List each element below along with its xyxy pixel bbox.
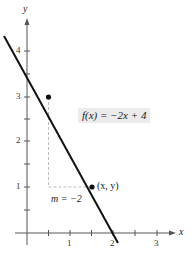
x-tick-label-3: 3 <box>154 239 159 248</box>
point-label: (x, y) <box>97 181 119 191</box>
y-axis-arrow-icon <box>25 18 30 25</box>
point-xy <box>89 184 94 189</box>
x-axis-arrow-icon <box>169 231 176 236</box>
line-graph <box>0 0 196 258</box>
x-axis-label: x <box>179 227 183 237</box>
y-tick-label-1: 1 <box>16 182 21 191</box>
slope-label: m = −2 <box>51 194 82 204</box>
function-line <box>4 36 118 243</box>
equation-label: f(x) = −2x + 4 <box>78 108 150 123</box>
x-tick-label-2: 2 <box>110 239 115 248</box>
y-tick-label-3: 3 <box>16 92 21 101</box>
x-tick-label-1: 1 <box>67 239 72 248</box>
point-start <box>46 94 51 99</box>
y-tick-label-2: 2 <box>16 136 21 145</box>
y-tick-label-4: 4 <box>16 46 21 55</box>
y-axis-label: y <box>23 4 27 14</box>
